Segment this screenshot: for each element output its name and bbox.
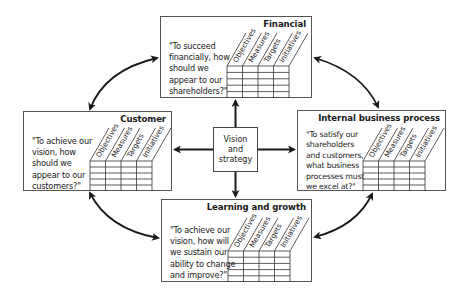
- vision-and-strategy-label: Vision and strategy: [219, 135, 252, 165]
- balanced-scorecard-diagram: Financial "To succeed financially, how s…: [0, 0, 467, 296]
- column-header-initiatives: Initiatives: [278, 214, 303, 249]
- arrow-internal-learning: [315, 194, 372, 237]
- perspective-learning-and-growth: Learning and growth "To achieve our visi…: [161, 199, 312, 282]
- scorecard-grid: ObjectivesMeasuresTargetsInitiatives: [23, 111, 172, 191]
- scorecard-grid: ObjectivesMeasuresTargetsInitiatives: [161, 199, 312, 282]
- arrow-customer-learning: [90, 193, 158, 238]
- perspective-financial: Financial "To succeed financially, how s…: [160, 16, 312, 98]
- perspective-customer: Customer "To achieve our vision, how sho…: [23, 111, 172, 191]
- column-header-initiatives: Initiatives: [413, 124, 438, 159]
- arrow-financial-customer: [90, 58, 157, 109]
- arrow-financial-internal: [315, 58, 378, 107]
- column-header-initiatives: Initiatives: [140, 124, 165, 159]
- scorecard-grid: ObjectivesMeasuresTargetsInitiatives: [160, 16, 312, 98]
- vision-and-strategy-box: Vision and strategy: [213, 127, 258, 172]
- column-header-initiatives: Initiatives: [277, 29, 302, 64]
- perspective-internal-business-process: Internal business process "To satisfy ou…: [297, 110, 446, 191]
- scorecard-grid: ObjectivesMeasuresTargetsInitiatives: [297, 110, 446, 191]
